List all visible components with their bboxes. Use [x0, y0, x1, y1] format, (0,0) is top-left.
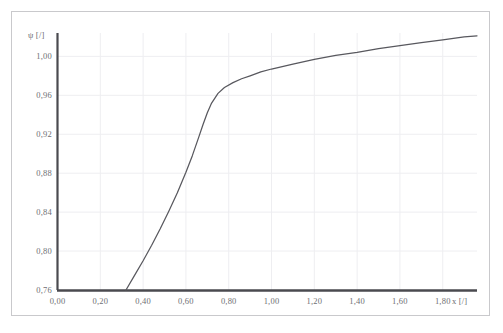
x-tick-label: 1,40 — [340, 296, 374, 306]
y-tick-label: 0,92 — [22, 129, 52, 139]
y-tick-label: 0,84 — [22, 207, 52, 217]
y-tick-label: 0,80 — [22, 246, 52, 256]
y-axis-title: ψ [/] — [28, 30, 44, 40]
x-tick-label: 0,40 — [126, 296, 160, 306]
x-tick-label: 1,80 — [426, 296, 460, 306]
x-tick-label: 0,20 — [83, 296, 117, 306]
x-tick-label: 1,60 — [383, 296, 417, 306]
x-tick-label: 0,80 — [212, 296, 246, 306]
chart-plot-area: ψ [/] x [/] 0,760,800,840,880,920,961,00… — [0, 0, 503, 333]
y-tick-label: 0,88 — [22, 168, 52, 178]
x-tick-label: 0,00 — [41, 296, 75, 306]
gridlines-group — [58, 33, 478, 290]
series-line-0 — [126, 36, 477, 290]
y-tick-label: 1,00 — [22, 51, 52, 61]
data-series-group — [126, 36, 477, 290]
x-tick-label: 0,60 — [169, 296, 203, 306]
x-tick-label: 1,00 — [255, 296, 289, 306]
axes-group — [57, 33, 477, 291]
y-tick-label: 0,96 — [22, 90, 52, 100]
y-tick-label: 0,76 — [22, 285, 52, 295]
x-tick-label: 1,20 — [297, 296, 331, 306]
chart-svg — [0, 0, 503, 333]
